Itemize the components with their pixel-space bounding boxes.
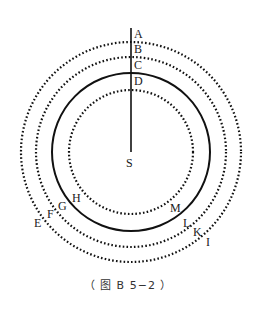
label-h: H	[72, 191, 81, 205]
label-g: G	[58, 199, 67, 213]
figure-caption: （ 图 B 5−2 ）	[0, 276, 256, 292]
label-l: L	[183, 216, 190, 230]
label-f: F	[47, 207, 54, 221]
label-b: B	[134, 42, 142, 56]
label-e: E	[34, 216, 41, 230]
label-s-center: S	[126, 156, 133, 170]
label-d: D	[134, 74, 143, 88]
label-a: A	[134, 27, 143, 41]
label-i: I	[206, 235, 210, 249]
label-k: K	[193, 225, 202, 239]
orbit-diagram: A B C D S E F G H I K L M	[0, 0, 256, 310]
label-m: M	[170, 201, 181, 215]
label-c: C	[134, 58, 142, 72]
